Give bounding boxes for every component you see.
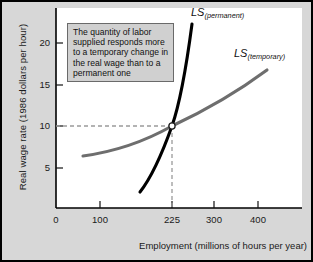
y-tick-label-15: 15 [28, 79, 50, 90]
equilibrium-point-marker [169, 123, 175, 129]
x-tick-label-0: 0 [41, 214, 71, 225]
y-tick-label-5: 5 [28, 162, 50, 173]
x-tick-label-225: 225 [157, 214, 187, 225]
x-axis-title: Employment (millions of hours per year) [92, 240, 307, 251]
y-tick-label-10: 10 [28, 120, 50, 131]
annotation-callout: The quantity of labor supplied responds … [67, 23, 174, 82]
curve-label-permanent-sub: (permanent) [204, 11, 244, 20]
y-tick-label-20: 20 [28, 37, 50, 48]
curve-label-temporary-main: LS [234, 47, 247, 59]
curve-label-temporary: LS(temporary) [234, 47, 285, 61]
x-tick-label-300: 300 [199, 214, 229, 225]
figure-container: 20 15 10 5 0 100 225 300 400 Real wage r… [0, 0, 313, 262]
curve-label-permanent: LS(permanent) [191, 6, 244, 20]
x-tick-label-400: 400 [243, 214, 273, 225]
y-axis-title-text: Real wage rate (1986 dollars per hour) [17, 24, 28, 190]
x-tick-label-100: 100 [85, 214, 115, 225]
curve-label-permanent-main: LS [191, 6, 204, 18]
y-axis-title: Real wage rate (1986 dollars per hour) [12, 7, 26, 207]
curve-label-temporary-sub: (temporary) [247, 52, 285, 61]
annotation-callout-text: The quantity of labor supplied responds … [73, 27, 169, 78]
